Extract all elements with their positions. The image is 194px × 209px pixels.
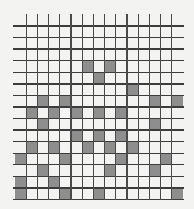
filled-cell bbox=[37, 95, 48, 107]
filled-cell bbox=[116, 153, 127, 165]
grid-line-vertical bbox=[138, 14, 139, 200]
grid-line-vertical bbox=[160, 14, 161, 200]
filled-cell bbox=[116, 130, 127, 142]
grid-line-vertical bbox=[82, 14, 83, 200]
filled-cell bbox=[37, 119, 48, 131]
grid-line-vertical bbox=[149, 14, 150, 200]
filled-cell bbox=[71, 107, 82, 119]
grid-line-vertical bbox=[115, 14, 116, 200]
grid-line-horizontal bbox=[13, 129, 184, 130]
grid-line-horizontal bbox=[13, 60, 184, 61]
filled-cell bbox=[127, 84, 138, 96]
filled-cell bbox=[49, 107, 60, 119]
filled-cell bbox=[49, 142, 60, 154]
filled-cell bbox=[82, 61, 93, 73]
grid-line-horizontal bbox=[13, 187, 184, 188]
filled-cell bbox=[161, 153, 172, 165]
filled-cell bbox=[127, 142, 138, 154]
grid-line-horizontal bbox=[13, 72, 184, 73]
grid-line-horizontal bbox=[13, 25, 184, 26]
filled-cell bbox=[93, 188, 104, 200]
filled-cell bbox=[49, 176, 60, 188]
grid-line-horizontal bbox=[13, 153, 184, 154]
grid-line-vertical bbox=[104, 14, 105, 200]
grid-line-vertical bbox=[26, 14, 27, 200]
filled-cell bbox=[37, 165, 48, 177]
filled-cell bbox=[172, 188, 183, 200]
grid-line-horizontal bbox=[13, 199, 184, 200]
grid-diagram bbox=[0, 0, 194, 209]
filled-cell bbox=[60, 153, 71, 165]
filled-cell bbox=[149, 165, 160, 177]
grid-line-horizontal bbox=[13, 106, 184, 107]
grid-line-horizontal bbox=[13, 118, 184, 119]
filled-cell bbox=[60, 95, 71, 107]
filled-cell bbox=[116, 107, 127, 119]
grid-line-horizontal bbox=[13, 141, 184, 142]
grid-line-vertical bbox=[59, 14, 60, 200]
grid-line-horizontal bbox=[13, 164, 184, 165]
filled-cell bbox=[149, 95, 160, 107]
filled-cell bbox=[15, 176, 26, 188]
grid-line-vertical bbox=[126, 14, 127, 200]
filled-cell bbox=[26, 142, 37, 154]
filled-cell bbox=[105, 142, 116, 154]
filled-cell bbox=[15, 188, 26, 200]
grid-line-horizontal bbox=[13, 48, 184, 49]
grid-line-vertical bbox=[70, 14, 71, 200]
filled-cell bbox=[93, 72, 104, 84]
grid-line-horizontal bbox=[13, 95, 184, 96]
grid-line-horizontal bbox=[13, 83, 184, 84]
filled-cell bbox=[71, 130, 82, 142]
grid-line-horizontal bbox=[13, 37, 184, 38]
filled-cell bbox=[15, 153, 26, 165]
grid-line-horizontal bbox=[13, 176, 184, 177]
filled-cell bbox=[60, 188, 71, 200]
grid-line-vertical bbox=[171, 14, 172, 200]
filled-cell bbox=[149, 119, 160, 131]
filled-cell bbox=[105, 165, 116, 177]
grid-line-vertical bbox=[93, 14, 94, 200]
filled-cell bbox=[105, 61, 116, 73]
filled-cell bbox=[82, 142, 93, 154]
grid-line-vertical bbox=[48, 14, 49, 200]
grid-line-vertical bbox=[37, 14, 38, 200]
filled-cell bbox=[93, 107, 104, 119]
filled-cell bbox=[172, 95, 183, 107]
filled-cell bbox=[26, 107, 37, 119]
filled-cell bbox=[93, 130, 104, 142]
